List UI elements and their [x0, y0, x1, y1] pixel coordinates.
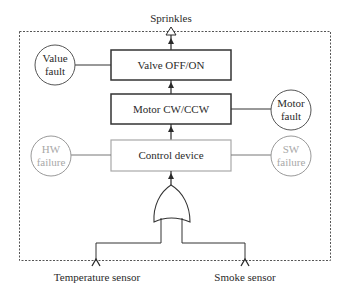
sprinkler-fault-diagram: Sprinkles Valve OFF/ON Motor CW/CCW Cont… — [0, 0, 347, 293]
arrowhead-icon — [168, 173, 174, 179]
temperature-sensor-label: Temperature sensor — [54, 271, 141, 283]
control-device-label: Control device — [138, 149, 203, 161]
gate-input-wires — [96, 218, 245, 260]
sw-failure-node: SW failure — [231, 136, 311, 176]
svg-text:failure: failure — [37, 156, 66, 168]
smoke-sensor-label: Smoke sensor — [214, 271, 276, 283]
svg-text:HW: HW — [42, 143, 61, 155]
control-device-block: Control device — [111, 140, 231, 171]
svg-text:Motor: Motor — [277, 97, 305, 109]
svg-text:SW: SW — [283, 143, 300, 155]
svg-text:fault: fault — [281, 110, 301, 122]
hw-failure-node: HW failure — [31, 136, 111, 176]
svg-text:failure: failure — [277, 156, 306, 168]
svg-text:fault: fault — [45, 65, 65, 77]
valve-label: Valve OFF/ON — [138, 59, 205, 71]
svg-text:Value: Value — [42, 52, 67, 64]
value-fault-node: Value fault — [35, 45, 111, 85]
sprinkles-label: Sprinkles — [150, 12, 192, 24]
motor-block: Motor CW/CCW — [111, 94, 231, 124]
motor-label: Motor CW/CCW — [133, 103, 210, 115]
arrowhead-icon — [168, 82, 174, 88]
motor-fault-node: Motor fault — [231, 90, 311, 130]
arrowhead-icon — [168, 38, 174, 44]
arrowhead-icon — [168, 126, 174, 132]
valve-block: Valve OFF/ON — [111, 50, 231, 80]
or-gate-icon — [154, 185, 190, 222]
